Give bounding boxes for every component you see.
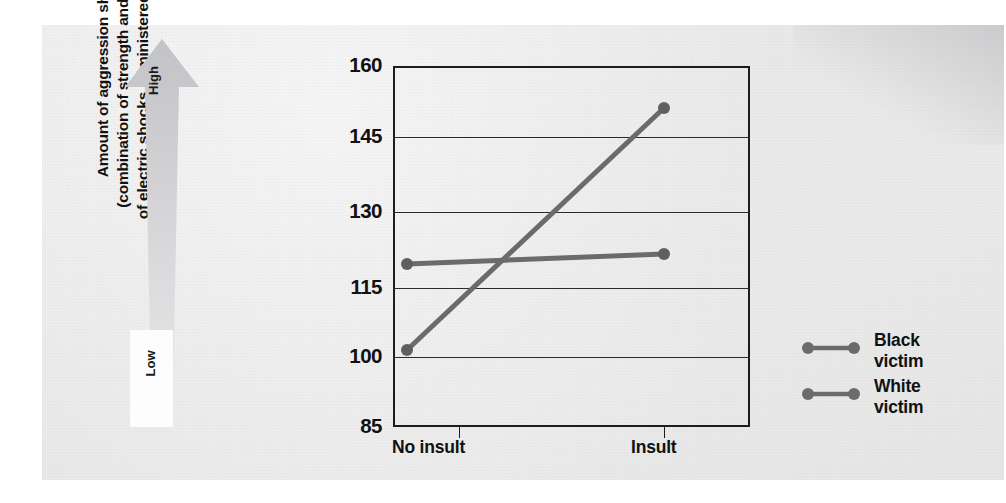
y-tick-label-160: 160 <box>318 55 382 76</box>
legend-label-black-victim: Black victim <box>874 330 989 373</box>
legend-symbol-black-victim <box>800 340 862 356</box>
y-tick-label-115: 115 <box>318 277 382 298</box>
legend-item-white-victim[interactable]: White victim <box>800 382 990 428</box>
series-layer <box>393 66 750 427</box>
arrow-low-label: Low <box>143 342 158 386</box>
figure-page: Amount of aggression shown (combination … <box>0 0 1006 503</box>
y-tick-label-100: 100 <box>318 346 382 367</box>
y-tick-label-145: 145 <box>318 126 382 147</box>
plot-area <box>393 66 750 427</box>
legend-label-white-victim: White victim <box>874 376 989 419</box>
legend-symbol-white-victim <box>800 386 862 402</box>
legend: Black victim White victim <box>800 336 990 428</box>
series-black-victim <box>401 248 670 270</box>
series-white-victim <box>401 102 670 356</box>
y-tick-label-85: 85 <box>318 416 382 437</box>
arrow-high-label: High <box>146 59 161 103</box>
x-tick-label-insult: Insult <box>631 437 676 458</box>
scan-corner-shadow <box>794 25 1004 145</box>
x-tick-label-no-insult: No insult <box>392 437 465 458</box>
y-tick-label-130: 130 <box>318 201 382 222</box>
